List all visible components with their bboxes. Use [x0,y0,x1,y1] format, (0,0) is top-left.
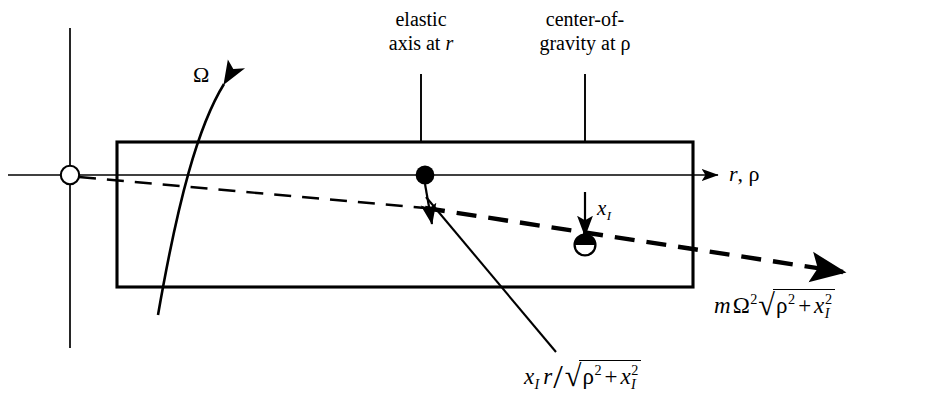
force-formula-mass: m [714,293,731,318]
center-of-gravity-marker [575,235,596,256]
force-formula-radical: √ρ2+xI2 [757,288,835,324]
centrifugal-force-formula: mΩ2√ρ2+xI2 [714,288,835,324]
elastic-axis-label-line2: axis at r [330,32,512,56]
center-of-gravity-label-symbol-rho: ρ [621,32,631,54]
moment-arm-formula: xIr/√ρ2+xI2 [524,356,641,397]
center-of-gravity-label-line2-text: gravity at [539,32,620,54]
force-formula-omega: Ω [731,293,750,318]
center-of-gravity-label-line1: center-of- [490,8,680,32]
force-formula-x-subscript: I [824,305,829,321]
elastic-axis-label-symbol-r: r [445,32,453,54]
diagram-canvas [0,0,930,406]
moment-arm-formula-radicand: ρ2+xI2 [579,360,641,393]
moment-arm-formula-r: r [539,364,552,389]
elastic-axis-label-line2-text: axis at [389,32,446,54]
origin-open-circle-marker [61,166,79,184]
moment-arm-formula-x: x [524,364,534,389]
moment-arm-formula-divide: / [552,356,564,397]
center-of-gravity-label: center-of- gravity at ρ [490,8,680,55]
force-formula-rho: ρ [776,293,787,318]
x-offset-label-x: x [597,196,606,220]
x-offset-label-subscript: I [606,208,611,223]
center-of-gravity-label-line2: gravity at ρ [490,32,680,56]
omega-label: Ω [193,62,209,88]
moment-arm-formula-rho-exponent: 2 [594,362,602,378]
force-formula-x: x [814,293,824,318]
elastic-axis-label-line1: elastic [330,8,512,32]
moment-arm-formula-plus: + [602,364,621,389]
rotation-arc [158,84,224,315]
force-formula-radicand: ρ2+xI2 [773,289,835,322]
moment-arm-formula-radical: √ρ2+xI2 [564,359,642,395]
moment-arm-formula-x2-exponent: 2 [631,362,639,378]
radial-axis-label: r, ρ [729,161,760,187]
deflected-axis-dashed-line-thick [425,208,843,272]
elastic-axis-filled-circle-marker [416,166,435,185]
force-formula-x-exponent: 2 [824,291,832,307]
x-offset-label: xI [597,196,611,224]
radial-axis-label-rho: ρ [749,161,760,186]
radial-axis-label-r: r [729,161,738,186]
force-formula-plus: + [795,293,814,318]
force-formula-omega-exponent: 2 [750,291,758,307]
deflected-axis-dashed-line-thin [79,177,425,208]
moment-arm-formula-x2-subscript: I [631,376,636,392]
moment-arm-formula-x2: x [621,364,631,389]
force-formula-rho-exponent: 2 [788,291,796,307]
elastic-axis-label: elastic axis at r [330,8,512,55]
moment-arm-formula-rho: ρ [582,364,593,389]
rotating-blade-diagram: elastic axis at r center-of- gravity at … [0,0,930,406]
radial-axis-label-comma: , [738,161,744,186]
